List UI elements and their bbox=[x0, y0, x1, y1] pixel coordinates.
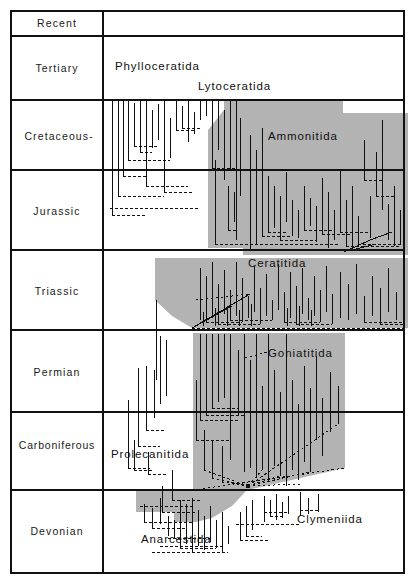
period-label-triassic: Triassic bbox=[11, 285, 103, 297]
stratigraphic-range-chart: Recent Tertiary Cretaceous- Jurassic Tri… bbox=[0, 0, 412, 583]
taxon-label-phylloceratida: Phylloceratida bbox=[115, 60, 200, 72]
taxon-label-clymeniida: Clymeniida bbox=[297, 513, 363, 525]
period-label-recent: Recent bbox=[11, 17, 103, 29]
period-label-carboniferous: Carboniferous bbox=[9, 439, 105, 451]
period-label-devonian: Devonian bbox=[11, 525, 103, 537]
taxon-label-ammonitida: Ammonitida bbox=[268, 130, 338, 142]
taxon-label-goniatitida: Goniatitida bbox=[268, 347, 333, 359]
taxon-label-prolecanitida: Prolecanitida bbox=[111, 448, 189, 460]
shade-anarcestida-spur bbox=[136, 490, 193, 512]
cretaceous-superscript-mark: - bbox=[89, 131, 93, 142]
taxon-label-lytoceratida: Lytoceratida bbox=[198, 80, 271, 92]
taxon-label-ceratitida: Ceratitida bbox=[248, 257, 306, 269]
period-label-permian: Permian bbox=[11, 366, 103, 378]
period-label-jurassic: Jurassic bbox=[11, 205, 103, 217]
period-label-cretaceous: Cretaceous- bbox=[11, 130, 107, 142]
taxon-label-anarcestida: Anarcestida bbox=[141, 533, 212, 545]
period-label-tertiary: Tertiary bbox=[11, 62, 103, 74]
period-label-cretaceous-text: Cretaceous bbox=[24, 130, 89, 142]
